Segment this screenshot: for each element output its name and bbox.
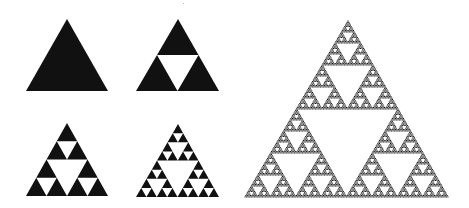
sierpinski-order-2 [26, 123, 108, 196]
sierpinski-order-0 [26, 19, 108, 91]
sierpinski-order-7-dotted-dots [244, 20, 448, 197]
sierpinski-order-1 [136, 19, 219, 91]
sierpinski-order-2-shape [26, 123, 108, 196]
sierpinski-order-3 [136, 124, 219, 197]
sierpinski-figure [0, 0, 469, 208]
scan-artifact-dot [183, 3, 184, 4]
sierpinski-order-0-shape [26, 19, 108, 91]
sierpinski-order-1-shape [136, 19, 219, 91]
sierpinski-order-7-dotted [244, 20, 448, 197]
sierpinski-order-3-shape [136, 124, 219, 197]
